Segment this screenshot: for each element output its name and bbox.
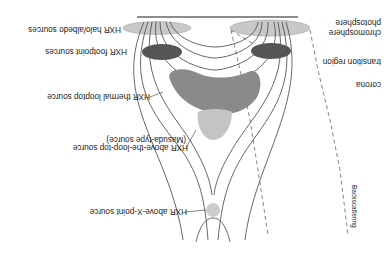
leader-line [185,210,206,212]
label-footpoint: HXR footpoint sources [45,47,127,56]
field-line [196,218,230,242]
hxr-source-diagram: HXR halo/albedo sources HXR footpoint so… [0,0,390,253]
label-thermal-looptop: HXR thermal looptop source [47,92,150,101]
label-photosphere: photosphere [335,18,381,27]
halo-albedo-ellipse-left [123,22,191,35]
label-chromosphere: chromosphere [328,28,381,37]
footpoint-ellipse-left [142,44,182,60]
backscatter-cone-left [231,30,268,235]
halo-albedo-ellipse-right [230,20,310,36]
masuda-source [198,109,232,140]
label-corona: corona [356,80,381,89]
thermal-looptop-source [169,69,260,114]
label-backscattering: Backscattering [350,185,358,228]
label-transition-region: transition region [322,57,381,66]
label-above-xpoint: HXR above-X-point source [89,207,187,216]
above-xpoint-source [206,203,220,217]
footpoint-ellipse-right [251,43,291,59]
label-halo-albedo: HXR halo/albedo sources [28,25,121,34]
label-masuda: (Masuda-type source) [106,135,186,144]
